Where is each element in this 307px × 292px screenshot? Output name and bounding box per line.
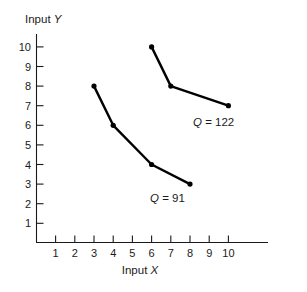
x-axis-ticks bbox=[56, 236, 229, 243]
x-axis-tick-labels: 1 2 3 4 5 6 7 8 9 10 bbox=[53, 247, 235, 259]
x-tick-label: 5 bbox=[129, 247, 135, 259]
x-tick-label: 4 bbox=[110, 247, 116, 259]
y-axis-ticks bbox=[37, 47, 44, 223]
y-tick-label: 5 bbox=[25, 139, 31, 151]
x-tick-label: 3 bbox=[91, 247, 97, 259]
x-axis-title-prefix: Input bbox=[122, 264, 148, 276]
chart-canvas: 10 9 8 7 6 5 4 3 2 1 1 2 3 4 5 6 7 8 9 1… bbox=[0, 0, 307, 292]
isoquant-q91-point bbox=[91, 84, 96, 89]
y-tick-label: 10 bbox=[19, 41, 31, 53]
y-tick-label: 2 bbox=[25, 198, 31, 210]
isoquant-chart-figure: 10 9 8 7 6 5 4 3 2 1 1 2 3 4 5 6 7 8 9 1… bbox=[0, 0, 307, 292]
y-axis-tick-labels: 10 9 8 7 6 5 4 3 2 1 bbox=[19, 41, 31, 229]
isoquant-q91-point bbox=[111, 123, 116, 128]
isoquant-q91-point bbox=[149, 162, 154, 167]
y-tick-label: 9 bbox=[25, 61, 31, 73]
x-tick-label: 2 bbox=[72, 247, 78, 259]
isoquant-label-q122-symbol: Q bbox=[193, 116, 202, 128]
x-axis-title-variable: X bbox=[150, 264, 160, 276]
isoquant-curve-q91 bbox=[91, 84, 192, 187]
y-axis-title: Input Y bbox=[25, 13, 63, 25]
isoquant-label-q91-value: 91 bbox=[172, 192, 185, 204]
isoquant-q91-path bbox=[94, 86, 190, 184]
x-tick-label: 9 bbox=[206, 247, 212, 259]
isoquant-q122-path bbox=[152, 47, 229, 106]
y-tick-label: 1 bbox=[25, 217, 31, 229]
isoquant-q122-point bbox=[168, 84, 173, 89]
isoquant-q122-point bbox=[149, 44, 154, 49]
isoquant-label-q122: Q = 122 bbox=[193, 116, 234, 128]
x-tick-label: 10 bbox=[222, 247, 234, 259]
isoquant-label-q122-value: 122 bbox=[215, 116, 234, 128]
y-tick-label: 4 bbox=[25, 159, 31, 171]
x-tick-label: 6 bbox=[149, 247, 155, 259]
y-axis-title-prefix: Input bbox=[25, 13, 51, 25]
isoquant-label-q91-symbol: Q bbox=[150, 192, 159, 204]
y-axis-title-variable: Y bbox=[54, 13, 63, 25]
x-tick-label: 8 bbox=[187, 247, 193, 259]
isoquant-label-q91: Q = 91 bbox=[150, 192, 185, 204]
y-tick-label: 8 bbox=[25, 80, 31, 92]
isoquant-q122-point bbox=[226, 103, 231, 108]
isoquant-curve-q122 bbox=[149, 44, 231, 108]
y-tick-label: 3 bbox=[25, 178, 31, 190]
x-tick-label: 7 bbox=[168, 247, 174, 259]
x-tick-label: 1 bbox=[53, 247, 59, 259]
x-axis-title: Input X bbox=[122, 264, 160, 276]
y-tick-label: 6 bbox=[25, 119, 31, 131]
y-tick-label: 7 bbox=[25, 100, 31, 112]
isoquant-q91-point bbox=[187, 182, 192, 187]
